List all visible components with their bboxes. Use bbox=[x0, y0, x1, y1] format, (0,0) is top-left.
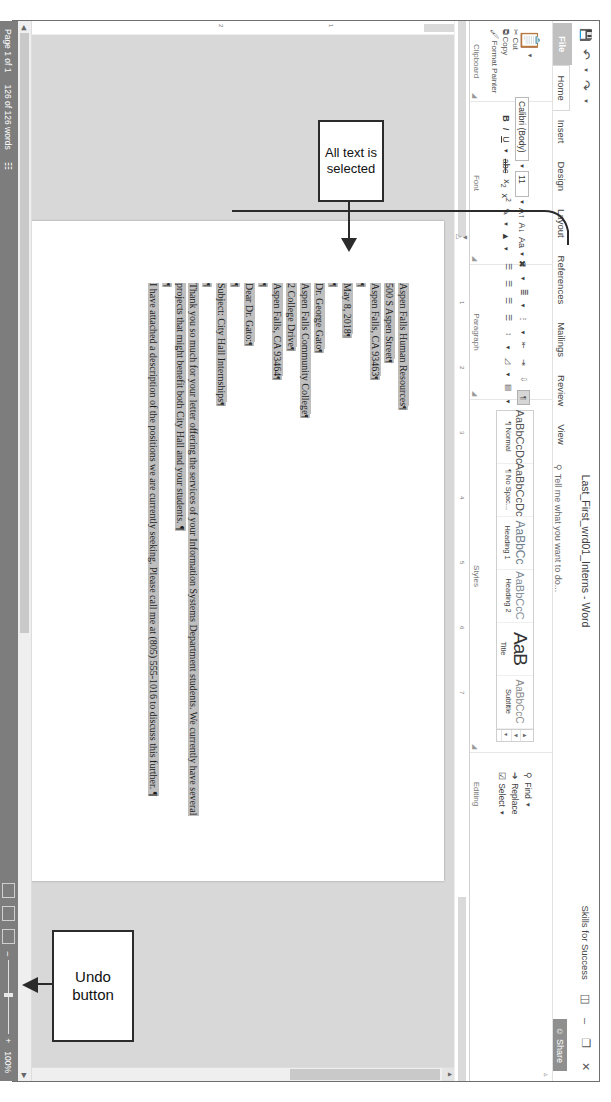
undo-dropdown-chevron-down-icon[interactable]: ▼ bbox=[583, 67, 589, 73]
ribbon-tab-strip[interactable]: File Home Insert Design Layout Reference… bbox=[553, 21, 573, 1081]
page-indicator[interactable]: Page 1 of 1 bbox=[3, 29, 13, 72]
select-button[interactable]: ☑ Select ▼ bbox=[497, 772, 507, 816]
save-icon[interactable]: 💾 bbox=[580, 28, 591, 42]
style-normal[interactable]: AaBbCcDc ¶ Normal bbox=[497, 411, 533, 464]
numbering-chevron-down-icon[interactable]: ▼ bbox=[520, 303, 526, 309]
align-center-icon[interactable]: ☰ bbox=[503, 277, 514, 290]
clipboard-dialog-launcher-icon[interactable]: ◢ bbox=[471, 93, 479, 98]
styles-dialog-launcher-icon[interactable]: ◢ bbox=[471, 744, 479, 749]
vertical-scroll-thumb[interactable] bbox=[290, 1069, 440, 1080]
scroll-up-icon[interactable]: ▲ bbox=[520, 730, 529, 742]
tab-references[interactable]: References bbox=[553, 247, 569, 314]
web-layout-icon[interactable] bbox=[2, 929, 15, 944]
strikethrough-button[interactable]: abc bbox=[501, 158, 511, 175]
document-text[interactable]: Aspen Falls Human Resources¶ 500 S Aspen… bbox=[147, 283, 410, 841]
select-chevron-down-icon[interactable]: ▼ bbox=[499, 810, 505, 816]
print-layout-icon[interactable] bbox=[2, 906, 15, 921]
underline-button[interactable]: U bbox=[501, 135, 511, 144]
justify-icon[interactable]: ☰ bbox=[503, 311, 514, 324]
horizontal-scrollbar[interactable]: ◀ ▶ bbox=[18, 21, 32, 1081]
restore-icon[interactable]: ❐ bbox=[579, 1038, 592, 1048]
scroll-left-arrow-icon[interactable]: ◀ bbox=[20, 21, 28, 33]
italic-button[interactable]: I bbox=[501, 127, 511, 132]
shading-chevron-down-icon[interactable]: ▼ bbox=[505, 372, 511, 378]
undo-icon[interactable]: ↶ bbox=[579, 49, 592, 60]
increase-indent-icon[interactable]: ⇥ bbox=[518, 356, 529, 369]
read-mode-icon[interactable] bbox=[2, 883, 15, 898]
scroll-up-arrow-icon[interactable]: ▲ bbox=[442, 1068, 454, 1081]
paragraph-dialog-launcher-icon[interactable]: ◢ bbox=[471, 391, 479, 396]
font-name-box[interactable]: Calibri (Body) bbox=[515, 97, 529, 161]
find-button[interactable]: ⚲ Find ▼ bbox=[523, 772, 533, 816]
find-chevron-down-icon[interactable]: ▼ bbox=[525, 802, 531, 808]
change-case-chevron-down-icon[interactable]: ▼ bbox=[519, 251, 525, 257]
zoom-thumb[interactable] bbox=[4, 993, 13, 997]
multilevel-list-icon[interactable]: ⋮ bbox=[518, 312, 529, 325]
bullets-icon[interactable]: ≡ bbox=[518, 259, 529, 272]
zoom-in-icon[interactable]: + bbox=[3, 1038, 13, 1043]
zoom-track[interactable] bbox=[8, 960, 9, 1034]
multilevel-chevron-down-icon[interactable]: ▼ bbox=[520, 329, 526, 335]
tab-design[interactable]: Design bbox=[553, 152, 569, 200]
style-title[interactable]: AaB Title bbox=[497, 623, 533, 676]
horizontal-scroll-thumb[interactable] bbox=[20, 33, 29, 633]
style-subtitle[interactable]: AaBbCcC Subtitle bbox=[497, 676, 533, 729]
vertical-ruler[interactable]: 1 2 bbox=[32, 21, 454, 35]
numbering-icon[interactable]: ≣ bbox=[518, 286, 529, 299]
zoom-out-icon[interactable]: – bbox=[3, 952, 13, 957]
style-heading-2[interactable]: AaBbCcC Heading 2 bbox=[497, 570, 533, 623]
bullets-chevron-down-icon[interactable]: ▼ bbox=[520, 276, 526, 282]
ribbon-display-options-icon[interactable]: ◫ bbox=[579, 994, 592, 1004]
scroll-right-arrow-icon[interactable]: ▶ bbox=[20, 1069, 28, 1081]
customize-quick-access-icon[interactable]: ▼ bbox=[583, 98, 589, 104]
superscript-button[interactable]: x2 bbox=[500, 193, 512, 203]
tab-insert[interactable]: Insert bbox=[553, 111, 569, 153]
tab-view[interactable]: View bbox=[553, 415, 569, 453]
more-styles-icon[interactable]: ▾ bbox=[501, 730, 511, 742]
horizontal-ruler[interactable]: 1 2 3 4 5 6 7 ▼ △ bbox=[454, 21, 469, 1081]
style-no-spacing[interactable]: AaBbCcDc ¶ No Spac... bbox=[497, 464, 533, 517]
document-canvas[interactable]: Aspen Falls Human Resources¶ 500 S Aspen… bbox=[32, 35, 454, 1067]
document-page[interactable]: Aspen Falls Human Resources¶ 500 S Aspen… bbox=[32, 221, 444, 881]
styles-gallery-nav[interactable]: ▲ ▼ ▾ bbox=[497, 729, 533, 742]
align-left-icon[interactable]: ☰ bbox=[503, 260, 514, 273]
copy-button[interactable]: ⧉ Copy bbox=[500, 29, 510, 56]
tab-mailings[interactable]: Mailings bbox=[553, 313, 569, 366]
line-spacing-icon[interactable]: ↕ bbox=[503, 328, 514, 341]
close-icon[interactable]: ✕ bbox=[579, 1062, 592, 1071]
paste-button[interactable]: 📋 ▼ bbox=[521, 29, 539, 59]
font-size-box[interactable]: 11 bbox=[515, 171, 529, 197]
shading-icon[interactable]: ◿ bbox=[503, 355, 514, 368]
minimize-icon[interactable]: – bbox=[580, 1018, 592, 1024]
zoom-slider[interactable]: – + bbox=[3, 952, 13, 1044]
share-button[interactable]: ☺ Share bbox=[553, 1019, 567, 1071]
paste-dropdown-chevron-down-icon[interactable]: ▼ bbox=[527, 53, 533, 59]
collapse-ribbon-icon[interactable]: ▵ bbox=[542, 1073, 550, 1077]
tell-me-search[interactable]: ⚲ Tell me what you want to do... bbox=[553, 464, 563, 593]
decrease-indent-icon[interactable]: ⇤ bbox=[518, 339, 529, 352]
line-spacing-chevron-down-icon[interactable]: ▼ bbox=[505, 345, 511, 351]
vertical-scrollbar[interactable]: ▲ bbox=[32, 1067, 454, 1081]
replace-button[interactable]: ➔ Replace bbox=[510, 772, 520, 816]
tab-file[interactable]: File bbox=[553, 23, 572, 65]
style-heading-1[interactable]: AaBbCc Heading 1 bbox=[497, 517, 533, 570]
borders-icon[interactable]: ▤ bbox=[503, 381, 514, 394]
font-name-chevron-down-icon[interactable]: ▼ bbox=[519, 163, 525, 169]
word-count[interactable]: 126 of 126 words bbox=[3, 84, 13, 149]
font-color-chevron-down-icon[interactable]: ▼ bbox=[503, 246, 509, 252]
underline-chevron-down-icon[interactable]: ▼ bbox=[503, 148, 509, 154]
tab-home[interactable]: Home bbox=[553, 65, 570, 110]
font-dialog-launcher-icon[interactable]: ◢ bbox=[471, 256, 479, 261]
bold-button[interactable]: B bbox=[501, 114, 511, 123]
tab-review[interactable]: Review bbox=[553, 366, 569, 415]
zoom-level-label[interactable]: 100% bbox=[3, 1051, 13, 1073]
sort-icon[interactable]: ⇩ bbox=[518, 373, 529, 386]
cut-button[interactable]: ✂ Cut bbox=[511, 29, 520, 50]
quick-access-toolbar[interactable]: 💾 ↶ ▼ ↷ ▼ bbox=[579, 21, 592, 104]
redo-icon[interactable]: ↷ bbox=[579, 80, 592, 91]
scroll-down-icon[interactable]: ▼ bbox=[511, 730, 520, 742]
align-right-icon[interactable]: ☰ bbox=[503, 294, 514, 307]
subscript-button[interactable]: x2 bbox=[500, 178, 512, 188]
proofing-errors-icon[interactable]: ☷ bbox=[3, 162, 13, 170]
format-painter-button[interactable]: 🖌 Format Painter bbox=[490, 29, 499, 94]
